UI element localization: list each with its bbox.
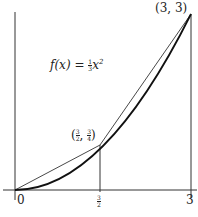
x-tick-3-2: 32 — [97, 195, 101, 208]
point-label-mid: (32, 34) — [71, 129, 96, 142]
function-label: f(x) = 13x2 — [50, 56, 103, 72]
point-label-3-3: (3, 3) — [155, 2, 187, 14]
secant-line — [15, 14, 191, 190]
x-tick-0: 0 — [17, 194, 25, 206]
plot-canvas — [0, 0, 198, 217]
figure: f(x) = 13x2 (3, 3) (32, 34) 0 32 3 — [0, 0, 198, 217]
x-tick-3: 3 — [186, 194, 194, 206]
